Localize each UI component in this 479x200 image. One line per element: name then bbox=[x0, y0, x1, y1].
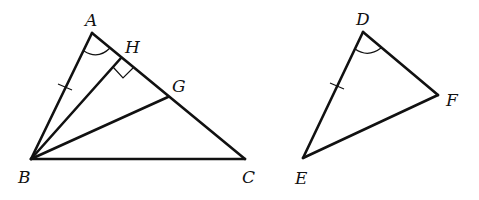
label-d: D bbox=[355, 9, 370, 29]
label-g: G bbox=[172, 76, 186, 96]
segment-df bbox=[363, 32, 438, 95]
segment-ab bbox=[31, 33, 92, 159]
segment-bg bbox=[31, 97, 168, 159]
segment-bh bbox=[31, 58, 121, 159]
label-a: A bbox=[83, 10, 97, 30]
geometry-diagram: A H G B C D F E bbox=[0, 0, 479, 200]
triangle-def: D F E bbox=[294, 9, 459, 188]
label-h: H bbox=[124, 37, 141, 57]
label-c: C bbox=[242, 167, 255, 187]
right-angle-mark-h bbox=[113, 67, 133, 78]
angle-arc-d bbox=[355, 48, 381, 53]
angle-arc-a bbox=[84, 48, 110, 55]
triangle-abc: A H G B C bbox=[17, 10, 255, 187]
segment-de bbox=[303, 32, 363, 158]
segment-ef bbox=[303, 95, 438, 158]
label-b: B bbox=[17, 167, 31, 187]
label-e: E bbox=[294, 168, 308, 188]
label-f: F bbox=[445, 90, 459, 110]
